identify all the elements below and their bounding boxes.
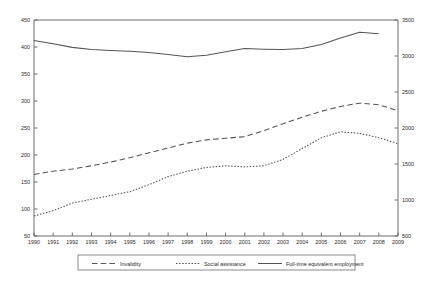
x-tick-label: 1996 (143, 239, 155, 245)
x-tick-label: 2006 (335, 239, 347, 245)
left-axis-ticks: 50100150200250300350400450 (21, 17, 38, 239)
left-tick-label: 300 (21, 98, 30, 104)
right-tick-label: 2000 (402, 125, 414, 131)
left-tick-label: 450 (21, 17, 30, 23)
x-tick-label: 1997 (162, 239, 174, 245)
legend-label-invalidity: Invalidity (120, 261, 141, 267)
x-tick-label: 2005 (315, 239, 327, 245)
x-tick-label: 2000 (220, 239, 232, 245)
right-axis-ticks: 500100015002000250030003500 (395, 17, 415, 239)
x-tick-label: 2003 (277, 239, 289, 245)
plot-frame (34, 20, 398, 236)
x-tick-label: 2009 (392, 239, 404, 245)
right-tick-label: 1000 (402, 197, 414, 203)
left-tick-label: 250 (21, 125, 30, 131)
left-tick-label: 100 (21, 206, 30, 212)
x-tick-label: 1993 (85, 239, 97, 245)
x-tick-label: 1992 (66, 239, 78, 245)
x-tick-label: 2007 (354, 239, 366, 245)
right-tick-label: 2500 (402, 89, 414, 95)
left-tick-label: 350 (21, 71, 30, 77)
legend-label-social-assistance: Social assistance (204, 261, 246, 267)
series-line-full-time-equivalent-employment (34, 32, 379, 56)
line-chart: 50100150200250300350400450 5001000150020… (0, 0, 432, 281)
left-tick-label: 150 (21, 179, 30, 185)
left-tick-label: 400 (21, 44, 30, 50)
x-axis-ticks: 1990199119921993199419951996199719981999… (28, 233, 404, 246)
x-tick-label: 1990 (28, 239, 40, 245)
x-tick-label: 2001 (239, 239, 251, 245)
series-group (34, 32, 398, 216)
x-tick-label: 1995 (124, 239, 136, 245)
x-tick-label: 1998 (181, 239, 193, 245)
series-line-social-assistance (34, 132, 398, 216)
right-tick-label: 3000 (402, 53, 414, 59)
right-tick-label: 1500 (402, 161, 414, 167)
series-line-invalidity (34, 103, 398, 174)
legend-label-full-time-equivalent-employment: Full-time equivalent employment (286, 261, 364, 267)
x-tick-label: 1994 (105, 239, 117, 245)
left-tick-label: 200 (21, 152, 30, 158)
x-tick-label: 1999 (200, 239, 212, 245)
x-tick-label: 2002 (258, 239, 270, 245)
x-tick-label: 1991 (47, 239, 59, 245)
x-tick-label: 2008 (373, 239, 385, 245)
right-tick-label: 3500 (402, 17, 414, 23)
x-tick-label: 2004 (296, 239, 308, 245)
chart-legend: InvaliditySocial assistanceFull-time equ… (78, 255, 364, 270)
chart-container: 50100150200250300350400450 5001000150020… (0, 0, 432, 281)
